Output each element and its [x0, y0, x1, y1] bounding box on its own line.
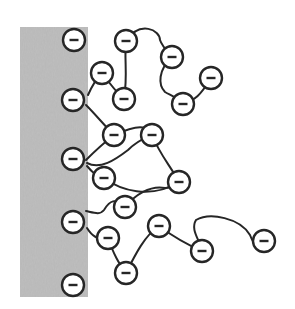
charged-bead [200, 67, 222, 89]
charged-bead [148, 215, 170, 237]
charged-beads [62, 29, 275, 296]
polyelectrolyte-brush-diagram: Negatively charged polymer chains grafte… [0, 0, 295, 309]
charged-bead [168, 171, 190, 193]
charged-bead [115, 262, 137, 284]
diagram-svg [0, 0, 295, 309]
anchor-bead [63, 29, 85, 51]
anchor-bead [62, 148, 84, 170]
charged-bead [115, 30, 137, 52]
charged-bead [103, 124, 125, 146]
charged-bead [191, 240, 213, 262]
charged-bead [113, 88, 135, 110]
charged-bead [172, 93, 194, 115]
charged-bead [97, 227, 119, 249]
anchor-bead [62, 274, 84, 296]
anchor-bead [62, 211, 84, 233]
charged-bead [253, 230, 275, 252]
charged-bead [114, 196, 136, 218]
charged-bead [91, 62, 113, 84]
charged-bead [161, 46, 183, 68]
charged-bead [93, 167, 115, 189]
anchor-bead [62, 89, 84, 111]
charged-bead [141, 124, 163, 146]
